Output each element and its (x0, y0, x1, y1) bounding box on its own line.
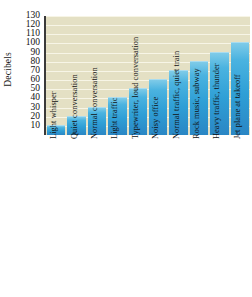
x-axis-tick-label-text: Light traffic (111, 98, 119, 139)
x-axis-tick-label-text: Heavy traffic, thunder (213, 63, 221, 139)
x-axis-tick-label-text: Jet plane at takeoff (234, 74, 242, 139)
x-axis-tick-label-text: Noisy office (152, 97, 160, 139)
x-axis-tick-label: Normal conversation (86, 137, 104, 295)
x-axis-tick-label: Heavy traffic, thunder (208, 137, 226, 295)
x-axis-tick-label-text: Quiet conversation (70, 74, 78, 139)
x-axis-tick-label-text: Normal conversation (91, 67, 99, 139)
x-axis-tick-label: Typewriter, loud conversation (127, 137, 145, 295)
x-axis-tick-label-text: Typewriter, loud conversation (132, 37, 140, 139)
x-axis-tick-label: Light traffic (106, 137, 124, 295)
y-axis-title-text: Decibels (3, 52, 13, 87)
x-axis-tick-label: Light whisper (45, 137, 63, 295)
y-axis-tick-labels: 130120110100908070605040302010 (14, 11, 40, 135)
x-axis-tick-label: Quiet conversation (65, 137, 83, 295)
x-axis-tick-labels: Light whisperQuiet conversationNormal co… (44, 137, 248, 295)
y-axis-tick-label: 10 (31, 121, 41, 131)
decibel-bar-chart: Decibels 130120110100908070605040302010 … (0, 0, 252, 297)
x-axis-tick-label: Normal traffic, quiet train (167, 137, 185, 295)
x-axis-tick-label: Noisy office (147, 137, 165, 295)
x-axis-tick-label: Jet plane at takeoff (229, 137, 247, 295)
x-axis-tick-label-text: Normal traffic, quiet train (172, 51, 180, 139)
x-axis-tick-label-text: Rock music, subway (193, 68, 201, 139)
x-axis-tick-label-text: Light whisper (50, 91, 58, 139)
x-axis-tick-label: Rock music, subway (188, 137, 206, 295)
